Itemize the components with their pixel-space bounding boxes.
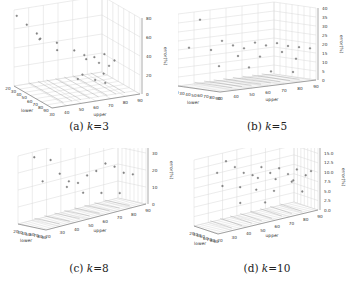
svg-text:40: 40 (246, 231, 252, 236)
caption-prefix: (d) (244, 262, 262, 274)
svg-text:80: 80 (303, 217, 309, 222)
svg-text:20: 20 (45, 234, 51, 239)
svg-text:60: 60 (146, 35, 152, 40)
svg-text:30: 30 (60, 230, 66, 235)
svg-text:30: 30 (217, 96, 223, 101)
caption-c: (c) k=8 (0, 262, 178, 274)
svg-text:lower: lower (194, 241, 206, 246)
svg-text:30: 30 (232, 235, 238, 240)
grid (178, 2, 316, 92)
caption-prefix: (b) (247, 120, 265, 132)
svg-text:50: 50 (191, 93, 197, 98)
svg-text:20: 20 (146, 73, 152, 78)
svg-text:70: 70 (281, 88, 287, 93)
svg-text:lower: lower (21, 108, 33, 113)
subplot-a: 203040506070809030405060708090020406080l… (0, 0, 178, 148)
svg-text:40: 40 (64, 110, 70, 115)
scatter-points (16, 15, 116, 84)
grid (14, 0, 140, 108)
svg-text:80: 80 (146, 16, 152, 21)
svg-text:60: 60 (102, 219, 108, 224)
svg-text:70: 70 (203, 94, 209, 99)
caption-a: (a) k=3 (0, 120, 178, 132)
svg-text:2.5: 2.5 (324, 198, 331, 203)
svg-text:0: 0 (152, 202, 155, 207)
svg-text:upper: upper (94, 112, 107, 117)
svg-text:20: 20 (217, 238, 223, 243)
scatter-points (33, 156, 133, 194)
svg-text:60: 60 (265, 90, 271, 95)
svg-text:40: 40 (322, 6, 328, 11)
svg-text:15: 15 (322, 51, 328, 56)
caption-value: =5 (272, 120, 287, 132)
svg-text:error(%): error(%) (169, 161, 174, 180)
svg-text:20: 20 (322, 42, 328, 47)
svg-text:5: 5 (322, 69, 325, 74)
svg-text:80: 80 (209, 95, 215, 100)
svg-text:80: 80 (297, 86, 303, 91)
svg-text:90: 90 (313, 84, 319, 89)
tick-labels: 2030405060708090203040506070809001020304… (13, 148, 157, 240)
svg-text:40: 40 (74, 227, 80, 232)
grid (194, 148, 318, 234)
svg-text:error(%): error(%) (163, 47, 168, 66)
svg-text:35: 35 (322, 15, 328, 20)
svg-text:30: 30 (152, 151, 158, 156)
svg-text:10: 10 (322, 60, 328, 65)
caption-value: =3 (93, 120, 108, 132)
svg-text:70: 70 (289, 221, 295, 226)
svg-text:30: 30 (322, 24, 328, 29)
grid (18, 148, 146, 230)
svg-text:60: 60 (197, 93, 203, 98)
svg-text:0.0: 0.0 (324, 208, 331, 213)
svg-text:0: 0 (322, 78, 325, 83)
subplot-b: 2030405060708090304050607080900510152025… (178, 0, 356, 148)
svg-text:70: 70 (108, 103, 114, 108)
svg-text:30: 30 (179, 91, 185, 96)
svg-text:30: 30 (49, 112, 55, 117)
svg-text:12.5: 12.5 (324, 160, 334, 165)
svg-text:70: 70 (117, 215, 123, 220)
svg-text:60: 60 (274, 224, 280, 229)
svg-text:50: 50 (249, 92, 255, 97)
svg-text:90: 90 (137, 98, 143, 103)
svg-text:error(%): error(%) (341, 168, 346, 187)
svg-text:10: 10 (152, 185, 158, 190)
svg-text:lower: lower (20, 238, 32, 243)
scatter-points (188, 19, 311, 73)
svg-text:0: 0 (146, 92, 149, 97)
svg-text:25: 25 (322, 33, 328, 38)
svg-text:7.5: 7.5 (324, 179, 331, 184)
caption-prefix: (c) (69, 262, 86, 274)
caption-value: =8 (93, 262, 108, 274)
svg-text:5.0: 5.0 (324, 189, 331, 194)
caption-value: =10 (268, 262, 290, 274)
subplot-d: 203040506070809020304050607080900.02.55.… (178, 148, 356, 296)
svg-text:upper: upper (266, 97, 279, 102)
svg-text:60: 60 (93, 105, 99, 110)
svg-text:20: 20 (152, 168, 158, 173)
svg-text:40: 40 (233, 94, 239, 99)
svg-text:upper: upper (94, 228, 107, 233)
svg-text:50: 50 (79, 107, 85, 112)
svg-text:90: 90 (317, 214, 323, 219)
svg-text:upper: upper (266, 233, 279, 238)
svg-text:90: 90 (43, 108, 49, 113)
svg-text:40: 40 (185, 92, 191, 97)
svg-text:80: 80 (123, 100, 129, 105)
svg-text:lower: lower (187, 100, 199, 105)
svg-text:80: 80 (131, 212, 137, 217)
subplot-c: 2030405060708090203040506070809001020304… (0, 148, 178, 296)
svg-text:40: 40 (146, 54, 152, 59)
svg-text:50: 50 (260, 228, 266, 233)
svg-text:10.0: 10.0 (324, 170, 334, 175)
svg-text:error(%): error(%) (339, 35, 344, 54)
svg-text:15.0: 15.0 (324, 151, 334, 156)
caption-prefix: (a) (69, 120, 87, 132)
svg-text:90: 90 (145, 208, 151, 213)
caption-b: (b) k=5 (178, 120, 356, 132)
caption-d: (d) k=10 (178, 262, 356, 274)
